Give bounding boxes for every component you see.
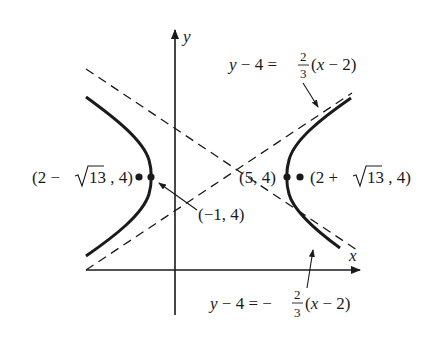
vertex-pointer-arrow bbox=[159, 183, 197, 210]
asymptote-negative-equation: y − 4 = − 2 3 (x − 2) bbox=[208, 250, 350, 320]
left-vertex-dot bbox=[147, 173, 154, 180]
svg-text:13 , 4): 13 , 4) bbox=[367, 168, 411, 187]
left-label-radicand: 13 bbox=[89, 168, 106, 187]
eq2-sign: − bbox=[262, 294, 272, 313]
eq2-y: y bbox=[208, 294, 218, 313]
vertex-label-group: (−1, 4) bbox=[159, 183, 244, 224]
eq1-y: y bbox=[227, 55, 237, 74]
left-point-label: (2 − 13 , 4) bbox=[32, 166, 133, 187]
left-label-prefix: (2 − bbox=[32, 168, 60, 187]
eq1-lhs-rest: − 4 = bbox=[237, 55, 277, 74]
eq1-denominator: 3 bbox=[300, 66, 307, 81]
hyperbola-diagram: y x (2 − 13 , 4) (2 + 13 bbox=[0, 0, 430, 342]
svg-text:(2 +: (2 + bbox=[310, 168, 338, 187]
right-label-suffix: , 4) bbox=[388, 168, 411, 187]
svg-text:y − 4 = −: y − 4 = − bbox=[208, 294, 272, 313]
svg-text:13 , 4): 13 , 4) bbox=[89, 168, 133, 187]
eq2-pointer-arrow bbox=[307, 250, 313, 288]
right-point-label: (2 + 13 , 4) bbox=[310, 166, 411, 187]
svg-text:(2 −: (2 − bbox=[32, 168, 60, 187]
left-focus-dot bbox=[135, 173, 142, 180]
right-label-prefix: (2 + bbox=[310, 168, 338, 187]
eq1-pointer-arrow bbox=[303, 83, 318, 107]
asymptote-positive-equation: y − 4 = 2 3 (x − 2) bbox=[227, 49, 356, 107]
vertex-point-label: (−1, 4) bbox=[198, 205, 244, 224]
center-point-label: (5, 4) bbox=[239, 168, 276, 187]
points bbox=[135, 173, 303, 180]
svg-text:(x − 2): (x − 2) bbox=[305, 294, 350, 313]
svg-text:(x − 2): (x − 2) bbox=[311, 55, 356, 74]
eq2-lhs-rest: − 4 = bbox=[218, 294, 263, 313]
eq2-numerator: 2 bbox=[294, 287, 301, 302]
eq1-numerator: 2 bbox=[300, 49, 307, 64]
svg-text:y − 4 =: y − 4 = bbox=[227, 55, 277, 74]
right-vertex-dot bbox=[283, 173, 290, 180]
right-label-radicand: 13 bbox=[367, 168, 384, 187]
eq2-rhs-close: − 2) bbox=[318, 294, 350, 313]
eq2-denominator: 3 bbox=[294, 305, 301, 320]
left-label-suffix: , 4) bbox=[110, 168, 133, 187]
x-axis-label: x bbox=[348, 246, 357, 265]
y-axis-label: y bbox=[181, 27, 191, 46]
eq1-rhs-close: − 2) bbox=[324, 55, 356, 74]
right-focus-dot bbox=[296, 173, 303, 180]
